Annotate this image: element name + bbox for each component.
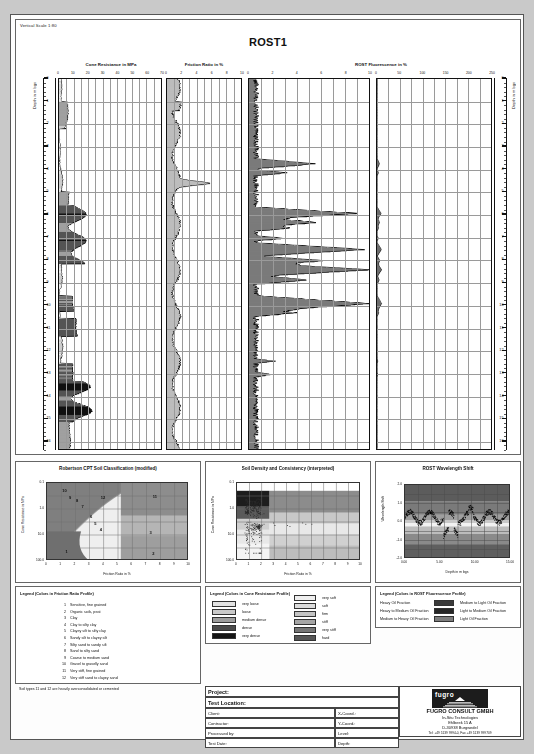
depth-tick: [44, 395, 48, 396]
depth-minor-tick: [44, 273, 46, 274]
rost-low-axis: 0246810: [248, 71, 370, 78]
y-coord-field[interactable]: Y-Coord.:: [335, 718, 399, 728]
grid-line: [59, 374, 161, 375]
depth-tick: [502, 168, 506, 169]
x-coord-field[interactable]: X-Coord.:: [335, 708, 399, 718]
legend-swatch: [294, 627, 316, 633]
grid-line: [249, 238, 369, 239]
chart-x-tick: 5.00: [436, 560, 442, 564]
robertson-zone-label: 10: [62, 487, 66, 492]
depth-tick: [502, 123, 506, 124]
depth-tick: [502, 259, 506, 260]
depth-minor-tick: [504, 432, 506, 433]
soil-density-chart: Soil Density and Consistency (interprete…: [205, 461, 371, 583]
depth-minor-tick: [504, 436, 506, 437]
friction-ratio-axis: 0246810: [166, 71, 242, 78]
cone-resistance-axis: 010203040506070: [58, 71, 162, 78]
depth-minor-tick: [44, 400, 46, 401]
depth-field[interactable]: Depth:: [335, 738, 399, 748]
grid-line: [249, 283, 369, 284]
depth-minor-tick: [504, 160, 506, 161]
rost-high-axis: 050100150200250: [376, 71, 492, 78]
depth-minor-tick: [44, 232, 46, 233]
legend-swatch: [212, 625, 236, 631]
rost-wavelength-plot-area: [404, 484, 510, 558]
depth-axis-left: 012345678910111213141516: [43, 78, 56, 450]
fugro-logo-icon: fugro: [432, 689, 488, 708]
depth-minor-tick: [44, 314, 46, 315]
depth-minor-tick: [504, 323, 506, 324]
depth-tick: [502, 304, 506, 305]
client-field[interactable]: Client:: [205, 708, 335, 718]
grid-line: [411, 79, 412, 449]
legend-item-number: 2: [58, 610, 66, 614]
grid-line: [167, 215, 241, 216]
robertson-plot-area: 109876541211321: [46, 482, 188, 560]
cone-resistance-profile: [58, 78, 162, 450]
test-date-field[interactable]: Test Date:: [205, 738, 335, 748]
depth-minor-tick: [504, 114, 506, 115]
depth-minor-tick: [44, 250, 46, 251]
depth-minor-tick: [504, 400, 506, 401]
contractor-field[interactable]: Contractor:: [205, 718, 335, 728]
axis-tick: 10: [240, 71, 244, 75]
grid-line: [445, 79, 446, 449]
depth-minor-tick: [504, 182, 506, 183]
legend-swatch: [212, 633, 236, 639]
chart-x-tick: 5: [297, 562, 299, 566]
depth-tick: [44, 236, 48, 237]
depth-tick: [502, 191, 506, 192]
legend-item-label: Coarse to medium sand: [70, 656, 109, 660]
chart-y-tick: 0.0: [380, 519, 402, 523]
test-location-field[interactable]: Test Location:: [205, 697, 399, 708]
grid-line: [125, 79, 126, 449]
chart-y-tick: 1.0: [22, 506, 44, 510]
legend-item-label: firm: [322, 612, 328, 616]
depth-minor-tick: [44, 114, 46, 115]
grid-line: [167, 192, 241, 193]
grid-line: [377, 351, 491, 352]
chart-x-tick: 8: [159, 562, 161, 566]
legend-item-label: Medium to Light Oil Fraction: [460, 601, 506, 605]
grid-line: [377, 306, 491, 307]
depth-minor-tick: [44, 318, 46, 319]
axis-tick: 20: [86, 71, 90, 75]
depth-minor-tick: [44, 92, 46, 93]
grid-line: [197, 79, 198, 449]
depth-tick: [502, 395, 506, 396]
soil-density-xlabel: Friction Ratio in %: [236, 572, 360, 576]
axis-tick: 40: [116, 71, 120, 75]
grid-line: [249, 374, 369, 375]
legend-swatch: [434, 600, 454, 606]
depth-tick: [44, 372, 48, 373]
depth-minor-tick: [504, 173, 506, 174]
legend-item-number: 9: [58, 656, 66, 660]
grid-line: [468, 79, 469, 449]
grid-line: [377, 147, 491, 148]
robertson-ylabel: Cone Resistance in MPa: [21, 496, 25, 533]
depth-minor-tick: [44, 337, 46, 338]
depth-minor-tick: [504, 178, 506, 179]
depth-minor-tick: [44, 182, 46, 183]
rost-fluorescence-low-profile: [248, 78, 370, 450]
depth-minor-tick: [44, 132, 46, 133]
grid-line: [309, 79, 310, 449]
grid-line: [110, 79, 111, 449]
legend-item-label: Clay to silty clay: [70, 623, 96, 627]
depth-minor-tick: [504, 128, 506, 129]
chart-x-tick: 10: [186, 562, 190, 566]
depth-minor-tick: [44, 200, 46, 201]
project-field[interactable]: Project:: [205, 686, 399, 697]
depth-minor-tick: [44, 359, 46, 360]
legend-item-label: Sand to silty sand: [70, 649, 99, 653]
depth-minor-tick: [44, 450, 46, 451]
chart-x-tick: 10.00: [471, 560, 479, 564]
level-field[interactable]: Level:: [335, 728, 399, 738]
depth-tick: [44, 304, 48, 305]
chart-x-tick: 7: [145, 562, 147, 566]
processed-by-field[interactable]: Processed by:: [205, 728, 335, 738]
chart-y-tick: 0.1: [22, 480, 44, 484]
grid-line: [377, 124, 491, 125]
grid-line: [249, 397, 369, 398]
depth-minor-tick: [44, 87, 46, 88]
